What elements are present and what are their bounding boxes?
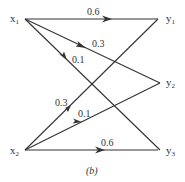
edge-x2-y2	[25, 83, 160, 150]
weight-x1-y2: 0.3	[92, 38, 105, 49]
arrow-icon	[76, 41, 87, 48]
svg-text:x1: x1	[10, 12, 20, 26]
node-y2: y2	[166, 76, 176, 90]
weight-x1-y1: 0.6	[87, 6, 100, 17]
weight-x2-y1: 0.3	[55, 97, 68, 108]
node-y3: y3	[166, 144, 176, 158]
svg-text:y3: y3	[166, 144, 176, 158]
svg-text:y1: y1	[166, 12, 176, 26]
weight-x2-y2: 0.1	[78, 108, 91, 119]
channel-diagram: 0.6 0.3 0.1 0.3 0.1 0.6 x1 x2 y1 y2 y3 (…	[0, 0, 185, 182]
svg-text:y2: y2	[166, 76, 176, 90]
node-y1: y1	[166, 12, 176, 26]
svg-text:x2: x2	[10, 144, 20, 158]
node-x2: x2	[10, 144, 20, 158]
weight-x1-y3: 0.1	[72, 54, 85, 65]
edge-x1-y2	[25, 19, 160, 83]
caption: (b)	[86, 165, 98, 177]
weight-x2-y3: 0.6	[101, 137, 114, 148]
node-x1: x1	[10, 12, 20, 26]
edge-x2-y3	[25, 147, 158, 154]
